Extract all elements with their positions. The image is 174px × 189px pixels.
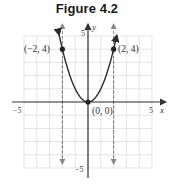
point-label-neg2-4: (−2, 4) <box>24 44 50 55</box>
point-label-origin: (0, 0) <box>92 106 113 117</box>
y-axis-label: y <box>91 22 96 32</box>
y-tick-pos5: 5 <box>81 29 85 38</box>
x-axis-label: x <box>159 105 164 115</box>
x-tick-pos5: 5 <box>149 106 153 115</box>
parabola-chart: −5 5 x 5 y −5 (−2, 4) (0, 0) (2, 4) <box>0 0 174 189</box>
y-tick-neg5: −5 <box>75 165 84 174</box>
point-label-2-4: (2, 4) <box>118 44 139 55</box>
x-tick-neg5: −5 <box>13 106 22 115</box>
